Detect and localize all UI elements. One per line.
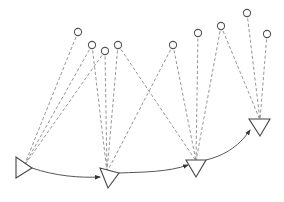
pose-triangle-P4 — [249, 119, 270, 136]
pose-graph-diagram — [0, 0, 284, 202]
pose-nodes — [16, 119, 270, 188]
landmark-nodes — [74, 9, 270, 54]
landmark-circle-L7 — [217, 22, 224, 29]
landmark-circle-L9 — [263, 30, 270, 37]
motion-edge-P3-P4 — [206, 130, 250, 160]
observation-edge-L8-P4 — [247, 13, 260, 120]
observation-edge-L7-P3 — [196, 26, 221, 161]
pose-triangle-P3 — [186, 160, 206, 177]
landmark-circle-L2 — [88, 41, 95, 48]
observation-edge-L2-P1 — [24, 45, 92, 166]
motion-edge-P2-P3 — [119, 165, 188, 173]
observation-edge-L5-P2 — [107, 45, 173, 172]
motion-edge-P1-P2 — [32, 168, 100, 177]
observation-edge-L1-P1 — [24, 32, 78, 166]
landmark-circle-L1 — [74, 28, 81, 35]
landmark-circle-L4 — [114, 41, 121, 48]
landmark-circle-L3 — [101, 47, 108, 54]
motion-edges — [32, 130, 250, 177]
pose-triangle-P2 — [100, 168, 119, 188]
observation-edge-L6-P3 — [196, 33, 198, 161]
observation-edge-L3-P1 — [24, 51, 105, 166]
pose-triangle-P1 — [16, 157, 32, 178]
observation-edges — [24, 13, 267, 172]
observation-edge-L2-P2 — [92, 45, 107, 172]
landmark-circle-L8 — [243, 9, 250, 16]
observation-edge-L4-P3 — [118, 45, 196, 161]
landmark-circle-L6 — [194, 29, 201, 36]
observation-edge-L9-P4 — [260, 34, 267, 120]
landmark-circle-L5 — [169, 41, 176, 48]
observation-edge-L4-P2 — [107, 45, 118, 172]
